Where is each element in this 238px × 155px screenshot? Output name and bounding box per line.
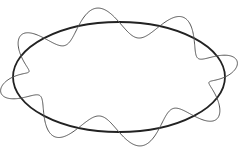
diagram-svg [0, 0, 238, 155]
standing-wave [1, 8, 238, 146]
standing-wave-orbit-diagram [0, 0, 238, 155]
